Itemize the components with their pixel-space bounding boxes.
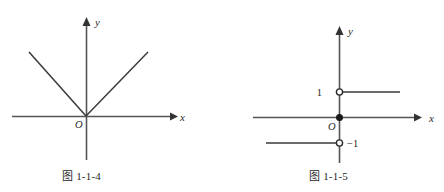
figures-canvas: y x O y x O 1 −1 [0, 0, 444, 192]
fig2-value-label-lower: −1 [347, 138, 358, 149]
fig1-y-axis-arrow-icon [83, 17, 91, 26]
fig1-x-axis-arrow-icon [170, 113, 178, 121]
fig2-y-axis-label: y [347, 25, 353, 37]
fig2-origin-label: O [328, 121, 336, 132]
fig1-right-ray [86, 52, 148, 116]
fig2-upper-open-point [336, 89, 342, 95]
figure-1-1-4-caption: 图 1-1-4 [62, 167, 101, 183]
fig2-origin-filled-point [337, 115, 343, 121]
fig1-left-ray [29, 52, 86, 116]
fig1-origin-label: O [75, 119, 83, 130]
figure-1-1-5-caption: 图 1-1-5 [309, 167, 348, 183]
fig2-y-axis-arrow-icon [336, 26, 344, 35]
figure-sheet: y x O y x O 1 −1 图 [0, 0, 444, 192]
fig1-y-axis-label: y [94, 16, 100, 28]
fig2-lower-open-point [336, 140, 342, 146]
figure-1-1-5-group: y x O 1 −1 [253, 25, 434, 163]
fig2-x-axis-label: x [428, 112, 434, 124]
fig2-value-label-upper: 1 [317, 87, 322, 98]
fig1-x-axis-label: x [179, 111, 185, 123]
fig2-x-axis-arrow-icon [414, 114, 422, 122]
figure-1-1-4-group: y x O [12, 16, 185, 160]
